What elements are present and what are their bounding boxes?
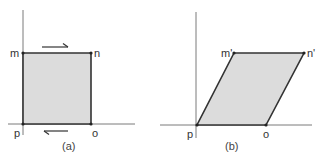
label-n: n xyxy=(94,47,100,59)
label-p: p xyxy=(187,128,193,140)
point-p xyxy=(21,122,24,125)
label-m: m xyxy=(10,47,19,59)
panel-a-square xyxy=(23,53,91,124)
arrow-left-icon xyxy=(44,131,68,135)
shear-deformation-diagram: m n o p (a) m' n' o p (b) xyxy=(0,0,325,160)
label-o: o xyxy=(92,127,98,139)
point-o xyxy=(264,123,267,126)
caption-b: (b) xyxy=(225,140,238,152)
label-n-prime: n' xyxy=(307,47,315,59)
label-p: p xyxy=(14,127,20,139)
point-o xyxy=(89,122,92,125)
panel-b: m' n' o p (b) xyxy=(160,12,315,152)
point-n-prime xyxy=(302,51,305,54)
label-o: o xyxy=(263,128,269,140)
caption-a: (a) xyxy=(62,140,75,152)
label-m-prime: m' xyxy=(221,47,232,59)
point-m xyxy=(21,51,24,54)
arrow-right-icon xyxy=(42,44,68,48)
point-n xyxy=(89,51,92,54)
point-p xyxy=(195,123,198,126)
panel-a: m n o p (a) xyxy=(8,10,135,152)
point-m-prime xyxy=(232,51,235,54)
panel-b-parallelogram xyxy=(197,53,304,125)
